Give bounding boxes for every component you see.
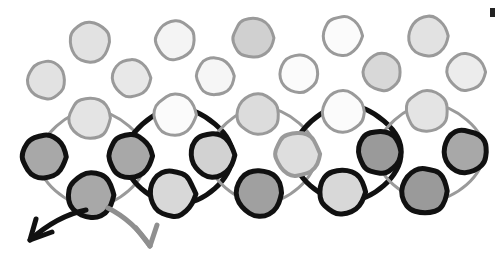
chain-node-top-2 [154, 94, 197, 135]
chain-node-middle-2 [109, 134, 153, 177]
chain-node-top-5 [406, 90, 447, 131]
free-monomer-row1-3 [233, 18, 274, 57]
chain-node-bottom-3 [236, 171, 281, 217]
scan-artifact-mark [490, 8, 495, 17]
free-monomer-row2-6 [447, 53, 486, 90]
free-monomer-row2-2 [112, 60, 151, 97]
chain-node-top-3 [237, 94, 278, 134]
chain-node-middle-6 [444, 130, 486, 173]
chain-node-bottom-2 [150, 171, 196, 217]
chain-node-middle-3 [191, 134, 235, 178]
free-monomer-row1-4 [323, 17, 362, 56]
chain-node-middle-1 [22, 135, 66, 178]
free-monomer-row2-3 [196, 58, 234, 95]
chain-node-top-1 [69, 98, 111, 138]
free-monomer-row2-4 [280, 55, 318, 93]
chain-node-middle-4 [275, 133, 320, 176]
molecular-chain-diagram [0, 0, 504, 273]
free-monomer-row1-5 [409, 16, 448, 56]
chain-node-bottom-5 [402, 168, 447, 212]
free-monomer-row1-2 [155, 21, 194, 60]
corner-mark-layer [490, 8, 495, 17]
free-monomer-row2-1 [27, 61, 64, 99]
free-monomer-row2-5 [363, 53, 400, 90]
chain-node-bottom-4 [320, 170, 366, 214]
chain-node-top-4 [322, 91, 364, 133]
figure-canvas [0, 0, 504, 273]
free-monomer-row1-1 [70, 22, 109, 62]
chain-node-middle-5 [358, 131, 401, 173]
